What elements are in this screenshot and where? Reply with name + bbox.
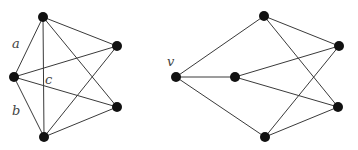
graph-edge [265, 107, 338, 137]
graph-vertex [38, 12, 48, 22]
graph-vertex [260, 132, 270, 142]
graph-edge [176, 77, 265, 137]
label-v: v [167, 54, 175, 69]
graph-edge [43, 17, 117, 46]
label-b: b [12, 103, 20, 118]
graph-edge [14, 46, 117, 77]
graph-vertex [171, 72, 181, 82]
graph-diagram: abcv [0, 0, 358, 150]
labels-layer: abcv [12, 36, 175, 118]
nodes-layer [9, 11, 344, 142]
graph-edge [44, 107, 117, 137]
graph-vertex [230, 72, 240, 82]
graph-edge [235, 46, 339, 77]
graph-edge [176, 16, 264, 77]
graph-edge [235, 77, 338, 107]
graph-vertex [112, 41, 122, 51]
graph-vertex [39, 132, 49, 142]
graph-vertex [112, 102, 122, 112]
graph-vertex [333, 102, 343, 112]
graph-edge [43, 17, 117, 107]
graph-edge [264, 16, 339, 46]
graph-vertex [9, 72, 19, 82]
graph-edge [265, 46, 339, 137]
graph-vertex [259, 11, 269, 21]
label-c: c [45, 72, 53, 87]
label-a: a [12, 36, 20, 51]
graph-edge [44, 46, 117, 137]
graph-vertex [334, 41, 344, 51]
graph-edge [14, 77, 117, 107]
graph-edge [43, 17, 44, 137]
